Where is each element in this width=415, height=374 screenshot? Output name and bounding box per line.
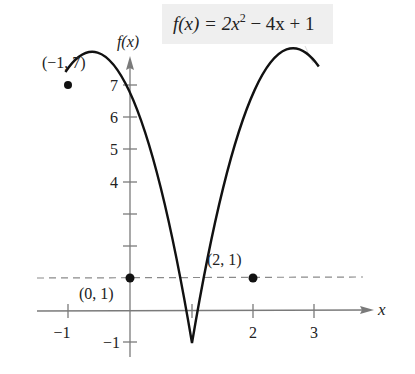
point-label: (2, 1) [207,251,242,269]
x-axis: −1 2 3 x [37,300,386,341]
x-axis-arrow-icon [360,306,374,314]
y-axis: 7 6 5 4 −1 f(x) [103,33,139,357]
x-tick-label: 2 [249,324,257,341]
point-label: (0, 1) [79,285,114,303]
y-tick-label: 6 [110,109,118,126]
x-tick-label: 3 [310,324,318,341]
y-tick-label: 7 [110,77,118,94]
y-tick-label: 5 [110,141,118,158]
y-axis-arrow-icon [126,56,134,70]
y-tick-label: 4 [110,174,118,191]
point-marker [64,81,72,89]
y-axis-label: f(x) [117,33,139,51]
parabola-chart: f(x) = 2x2 − 4x + 1 −1 2 3 x 7 6 5 4 −1 … [0,0,415,374]
point-marker [249,274,258,283]
point-label: (−1, 7) [42,54,86,72]
x-tick-label: −1 [53,324,70,341]
reference-line-y1 [37,277,363,278]
x-axis-label: x [377,300,386,319]
point-marker [126,274,135,283]
y-tick-label: −1 [103,334,120,351]
